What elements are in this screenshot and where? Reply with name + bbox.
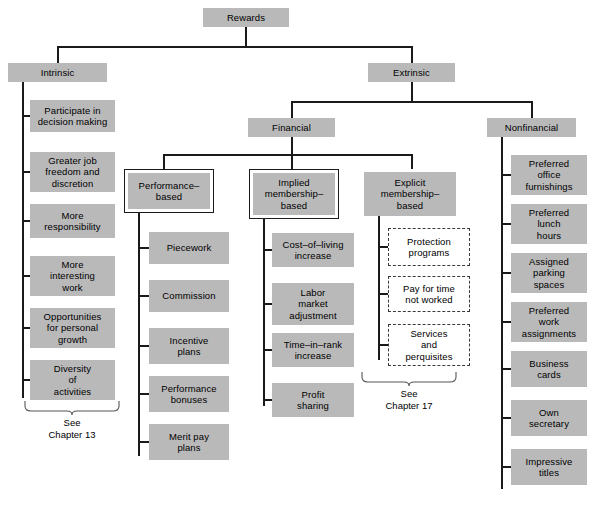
- connector-to-intrinsic: [57, 46, 59, 64]
- connector-to-explicit: [411, 154, 413, 169]
- implied-item: Labor market adjustment: [272, 283, 354, 325]
- nonfinancial-item: Assigned parking spaces: [511, 253, 587, 293]
- diagram-canvas: Rewards Intrinsic Extrinsic Financial No…: [0, 0, 592, 530]
- connector-to-extrinsic: [411, 46, 413, 64]
- performance-connector: [138, 441, 149, 443]
- performance-connector: [138, 295, 149, 297]
- connector-performance-spine: [138, 213, 140, 456]
- node-rewards: Rewards: [203, 8, 289, 27]
- intrinsic-item: Diversity of activities: [30, 360, 115, 400]
- connector-extrinsic-bus: [291, 101, 533, 103]
- performance-connector: [138, 393, 149, 395]
- connector-implied-spine: [263, 219, 265, 406]
- implied-connector: [263, 399, 272, 401]
- implied-item: Cost–of–living increase: [272, 233, 354, 267]
- connector-nonfinancial-spine: [501, 137, 503, 489]
- connector-to-performance: [163, 154, 165, 169]
- connector-root-bus: [57, 46, 412, 48]
- intrinsic-connector: [22, 327, 30, 329]
- implied-connector: [263, 349, 272, 351]
- performance-connector: [138, 345, 149, 347]
- connector-root-stem: [245, 27, 247, 47]
- node-explicit-membership-based: Explicit membership– based: [364, 172, 456, 216]
- nonfinancial-connector: [501, 272, 511, 274]
- intrinsic-connector: [22, 171, 30, 173]
- performance-connector: [138, 247, 149, 249]
- connector-financial-stem: [291, 137, 293, 155]
- explicit-connector: [378, 246, 388, 248]
- performance-item: Merit pay plans: [149, 424, 229, 460]
- nonfinancial-connector: [501, 368, 511, 370]
- intrinsic-item: Opportunities for personal growth: [30, 308, 115, 348]
- brace-intrinsic: [24, 400, 120, 416]
- nonfinancial-item: Preferred work assignments: [511, 302, 587, 342]
- node-performance-based-label: Performance– based: [128, 173, 210, 209]
- nonfinancial-item: Preferred lunch hours: [511, 204, 587, 244]
- connector-explicit-spine: [378, 216, 380, 360]
- intrinsic-connector: [22, 275, 30, 277]
- intrinsic-item: Participate in decision making: [30, 100, 115, 132]
- intrinsic-connector: [22, 115, 30, 117]
- nonfinancial-item: Impressive titles: [511, 449, 587, 485]
- nonfinancial-connector: [501, 466, 511, 468]
- implied-connector: [263, 249, 272, 251]
- node-implied-membership-based: Implied membership– based: [249, 169, 339, 219]
- connector-to-implied: [291, 154, 293, 169]
- brace-explicit: [361, 371, 457, 387]
- explicit-connector: [378, 344, 388, 346]
- connector-financial-bus: [163, 154, 411, 156]
- performance-item: Piecework: [149, 232, 229, 264]
- connector-extrinsic-stem: [411, 82, 413, 102]
- performance-item: Incentive plans: [149, 328, 229, 364]
- intrinsic-item: More interesting work: [30, 256, 115, 296]
- nonfinancial-connector: [501, 417, 511, 419]
- connector-intrinsic-spine: [22, 82, 24, 398]
- connector-to-financial: [291, 101, 293, 119]
- intrinsic-item: Greater job freedom and discretion: [30, 152, 115, 192]
- node-performance-based: Performance– based: [124, 169, 214, 213]
- node-implied-membership-based-label: Implied membership– based: [253, 173, 335, 215]
- connector-to-nonfinancial: [531, 101, 533, 119]
- intrinsic-connector: [22, 220, 30, 222]
- node-extrinsic: Extrinsic: [368, 63, 455, 82]
- intrinsic-item: More responsibility: [30, 204, 115, 238]
- performance-item: Performance bonuses: [149, 376, 229, 412]
- nonfinancial-connector: [501, 321, 511, 323]
- explicit-connector: [378, 293, 388, 295]
- nonfinancial-item: Business cards: [511, 351, 587, 387]
- node-nonfinancial: Nonfinancial: [487, 118, 576, 137]
- caption-intrinsic-reference: See Chapter 13: [24, 417, 120, 440]
- node-financial: Financial: [248, 118, 335, 137]
- implied-connector: [263, 303, 272, 305]
- implied-item: Profit sharing: [272, 383, 354, 417]
- implied-item: Time–in–rank increase: [272, 333, 354, 367]
- explicit-item: Services and perquisites: [388, 324, 470, 366]
- explicit-item: Protection programs: [388, 228, 470, 266]
- node-intrinsic: Intrinsic: [8, 63, 107, 82]
- intrinsic-connector: [22, 379, 30, 381]
- nonfinancial-item: Preferred office furnishings: [511, 155, 587, 195]
- nonfinancial-connector: [501, 174, 511, 176]
- nonfinancial-item: Own secretary: [511, 400, 587, 436]
- caption-explicit-reference: See Chapter 17: [361, 388, 457, 411]
- nonfinancial-connector: [501, 223, 511, 225]
- performance-item: Commission: [149, 280, 229, 312]
- explicit-item: Pay for time not worked: [388, 276, 470, 312]
